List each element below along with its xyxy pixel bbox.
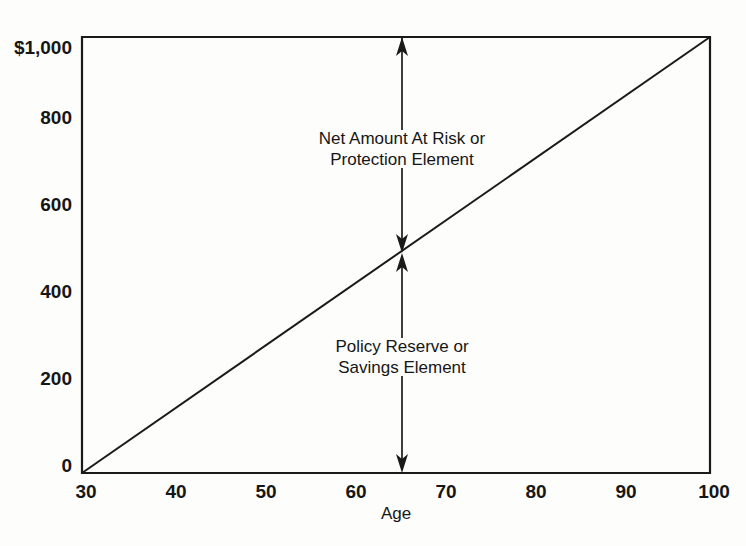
x-tick-label-100: 100 — [698, 481, 730, 502]
chart-figure: $1,000 800 600 400 200 0 30 40 50 60 70 … — [0, 0, 746, 546]
y-tick-label-400: 400 — [40, 281, 72, 302]
upper-annotation-line2: Protection Element — [330, 150, 474, 169]
net-amount-at-risk-annotation: Net Amount At Risk or Protection Element — [319, 37, 486, 253]
x-tick-label-40: 40 — [165, 481, 186, 502]
x-tick-label-30: 30 — [75, 481, 96, 502]
x-tick-label-60: 60 — [345, 481, 366, 502]
x-tick-label-50: 50 — [255, 481, 276, 502]
y-tick-label-800: 800 — [40, 107, 72, 128]
y-axis-tick-labels: $1,000 800 600 400 200 0 — [14, 37, 72, 476]
x-axis-title: Age — [381, 504, 411, 523]
x-tick-label-90: 90 — [615, 481, 636, 502]
y-tick-label-0: 0 — [61, 455, 72, 476]
upper-annotation-line1: Net Amount At Risk or — [319, 129, 486, 148]
y-tick-label-1000: $1,000 — [14, 37, 72, 58]
x-tick-label-80: 80 — [525, 481, 546, 502]
y-tick-label-600: 600 — [40, 194, 72, 215]
lower-annotation-line1: Policy Reserve or — [335, 337, 469, 356]
x-axis-tick-labels: 30 40 50 60 70 80 90 100 — [75, 481, 729, 502]
lower-annotation-line2: Savings Element — [338, 358, 466, 377]
x-tick-label-70: 70 — [435, 481, 456, 502]
y-tick-label-200: 200 — [40, 368, 72, 389]
life-insurance-reserve-chart: $1,000 800 600 400 200 0 30 40 50 60 70 … — [0, 0, 746, 546]
data-series-group — [82, 37, 710, 473]
reserve-line — [82, 37, 710, 473]
policy-reserve-annotation: Policy Reserve or Savings Element — [335, 253, 469, 473]
